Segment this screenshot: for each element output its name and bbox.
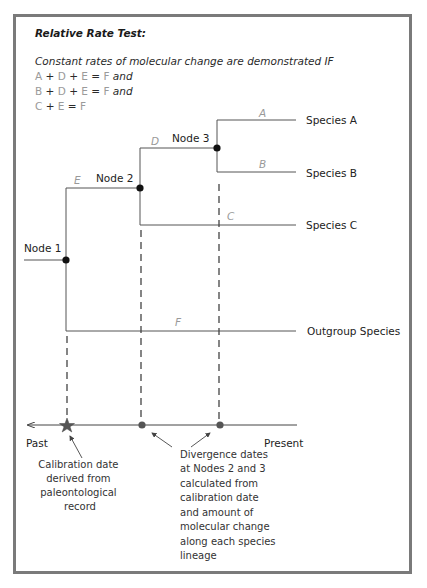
diagram-title: Relative Rate Test: (35, 27, 146, 39)
node2-dot (136, 184, 143, 191)
note-line: calculated from (180, 478, 258, 489)
term: E (58, 100, 65, 112)
species-b-label: Species B (306, 167, 357, 179)
note-line: molecular change (180, 521, 270, 532)
conjunction: and (113, 85, 133, 97)
term: E (81, 85, 88, 97)
outgroup-species-label: Outgroup Species (307, 325, 400, 337)
term: B (35, 85, 42, 97)
calibration-star-icon (60, 418, 75, 432)
note-line: record (64, 501, 96, 512)
species-c-label: Species C (306, 219, 357, 231)
node1-dot (62, 256, 69, 263)
plus-sign: + (69, 70, 78, 82)
species-a-label: Species A (306, 114, 358, 126)
note-line: Calibration date (38, 459, 118, 470)
plus-sign: + (46, 100, 55, 112)
note-line: Divergence dates (180, 449, 268, 460)
node3-label: Node 3 (172, 132, 209, 144)
node3-arrow (191, 433, 210, 447)
condition-intro: Constant rates of molecular change are d… (35, 55, 335, 67)
branch-label-c: C (227, 210, 235, 222)
relative-rate-diagram: Relative Rate Test: Constant rates of mo… (0, 0, 427, 588)
branch-label-a: A (258, 107, 266, 119)
node2-arrow (152, 433, 172, 447)
note-line: along each species (180, 536, 276, 547)
term: E (81, 70, 88, 82)
result: F (103, 70, 109, 82)
calibration-note: Calibration date derived from paleontolo… (38, 459, 121, 512)
note-line: at Nodes 2 and 3 (180, 463, 266, 474)
node3-dot (213, 144, 220, 151)
node2-label: Node 2 (96, 172, 133, 184)
result: F (103, 85, 109, 97)
note-line: and amount of (180, 507, 254, 518)
equals-sign: = (91, 70, 100, 82)
equation-2: B + D + E = F and (35, 85, 133, 97)
branch-label-e: E (74, 174, 81, 186)
term: C (35, 100, 42, 112)
past-label: Past (26, 437, 48, 449)
note-line: paleontological (40, 487, 116, 498)
plus-sign: + (46, 85, 55, 97)
term: D (58, 85, 66, 97)
node3-date-marker (216, 421, 223, 428)
term: D (58, 70, 66, 82)
equals-sign: = (91, 85, 100, 97)
plus-sign: + (46, 70, 55, 82)
equation-1: A + D + E = F and (35, 70, 133, 82)
term: A (35, 70, 43, 82)
node1-label: Node 1 (24, 242, 61, 254)
note-line: calibration date (180, 492, 259, 503)
plus-sign: + (69, 85, 78, 97)
branch-label-f: F (175, 316, 182, 328)
branch-label-d: D (151, 135, 159, 147)
node2-date-marker (138, 421, 145, 428)
conjunction: and (113, 70, 133, 82)
equation-3: C + E = F (35, 100, 86, 112)
note-line: derived from (46, 473, 110, 484)
equals-sign: = (68, 100, 77, 112)
present-label: Present (264, 437, 303, 449)
note-line: lineage (180, 550, 217, 561)
calibration-arrow (70, 436, 82, 458)
branch-label-b: B (259, 158, 266, 170)
result: F (80, 100, 86, 112)
divergence-note: Divergence dates at Nodes 2 and 3 calcul… (180, 449, 279, 561)
